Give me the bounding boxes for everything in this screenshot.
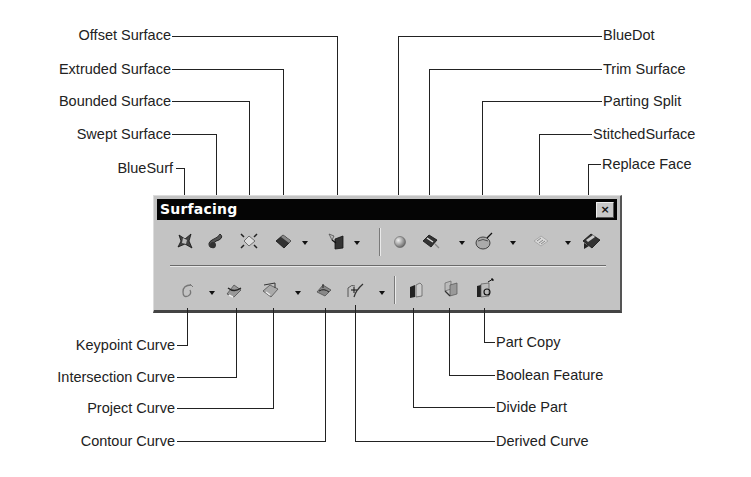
contour-curve-icon: [314, 280, 334, 300]
bluesurf-button[interactable]: [175, 231, 195, 251]
leader-intersection-v: [236, 308, 237, 378]
intersection-curve-button[interactable]: [224, 280, 244, 300]
extruded-surface-button[interactable]: [273, 231, 293, 251]
offset-surface-button[interactable]: [326, 231, 346, 251]
label-part-copy: Part Copy: [496, 334, 560, 350]
leader-contour-h: [177, 441, 326, 442]
trim-surface-icon: [420, 231, 440, 251]
bluedot-button[interactable]: [390, 231, 410, 251]
extruded-surface-dropdown[interactable]: [302, 241, 308, 245]
bluesurf-icon: [175, 231, 195, 251]
bluedot-icon: [390, 231, 410, 251]
replace-face-icon: [580, 230, 602, 252]
label-boolean-feature: Boolean Feature: [496, 367, 603, 383]
derived-curve-icon: [346, 280, 366, 300]
label-offset-surface: Offset Surface: [79, 27, 171, 43]
label-keypoint-curve: Keypoint Curve: [76, 337, 175, 353]
bounded-surface-icon: [239, 231, 259, 251]
extruded-surface-icon: [273, 231, 293, 251]
leader-divide-h: [413, 407, 495, 408]
stitched-surface-dropdown[interactable]: [565, 241, 571, 245]
project-curve-icon: [260, 280, 280, 300]
trim-surface-button[interactable]: [420, 231, 440, 251]
label-contour-curve: Contour Curve: [81, 433, 175, 449]
part-copy-icon: [474, 278, 496, 300]
leader-keypoint-h: [177, 345, 188, 346]
label-trim-surface: Trim Surface: [603, 61, 685, 77]
label-divide-part: Divide Part: [496, 399, 567, 415]
leader-partcopy-v: [484, 308, 485, 343]
keypoint-curve-button[interactable]: [178, 281, 198, 301]
leader-stitched-h: [539, 134, 592, 135]
label-replace-face: Replace Face: [602, 156, 691, 172]
label-bluedot: BlueDot: [603, 27, 655, 43]
keypoint-curve-dropdown[interactable]: [209, 291, 215, 295]
leader-offset-h: [172, 36, 338, 37]
toolbar-title: Surfacing: [160, 201, 237, 217]
label-extruded-surface: Extruded Surface: [59, 61, 171, 77]
project-curve-button[interactable]: [260, 280, 280, 300]
leader-trim-h: [429, 69, 602, 70]
leader-project-h: [177, 408, 274, 409]
leader-bluedot-h: [398, 36, 602, 37]
part-copy-button[interactable]: [474, 278, 494, 298]
leader-project-v: [273, 308, 274, 409]
leader-partcopy-h: [484, 342, 495, 343]
label-intersection-curve: Intersection Curve: [57, 369, 175, 385]
divide-part-button[interactable]: [406, 280, 426, 300]
toolbar-row-separator: [170, 265, 606, 267]
label-derived-curve: Derived Curve: [496, 433, 589, 449]
stitched-surface-icon: [531, 231, 551, 251]
trim-surface-dropdown[interactable]: [459, 241, 465, 245]
parting-split-dropdown[interactable]: [510, 241, 516, 245]
swept-surface-icon: [206, 231, 226, 251]
contour-curve-button[interactable]: [314, 280, 334, 300]
leader-divide-v: [413, 308, 414, 408]
surfacing-toolbar: Surfacing ×: [153, 195, 622, 313]
leader-keypoint-v: [187, 308, 188, 346]
leader-intersection-h: [177, 377, 237, 378]
leader-swept-h: [172, 134, 217, 135]
leader-derived-v: [355, 305, 356, 442]
close-button[interactable]: ×: [596, 202, 614, 218]
label-bluesurf: BlueSurf: [117, 160, 173, 176]
keypoint-curve-icon: [178, 281, 198, 301]
label-project-curve: Project Curve: [87, 400, 175, 416]
project-curve-dropdown[interactable]: [295, 291, 301, 295]
leader-boolean-v: [449, 308, 450, 376]
parting-split-button[interactable]: [474, 231, 494, 251]
label-swept-surface: Swept Surface: [77, 126, 171, 142]
label-parting-split: Parting Split: [603, 93, 681, 109]
leader-bounded-h: [172, 101, 250, 102]
toolbar-titlebar[interactable]: Surfacing ×: [157, 199, 617, 220]
replace-face-button[interactable]: [580, 230, 600, 250]
leader-replace-h: [588, 164, 601, 165]
intersection-curve-icon: [224, 280, 244, 300]
toolbar-separator: [379, 228, 381, 256]
label-stitched-surface: StitchedSurface: [593, 126, 695, 142]
stitched-surface-button[interactable]: [531, 231, 551, 251]
parting-split-icon: [474, 231, 494, 251]
divide-part-icon: [406, 280, 426, 300]
offset-surface-dropdown[interactable]: [354, 241, 360, 245]
leader-contour-v: [325, 308, 326, 442]
offset-surface-icon: [326, 231, 346, 251]
derived-curve-button[interactable]: [346, 280, 366, 300]
boolean-feature-icon: [441, 279, 461, 299]
boolean-feature-button[interactable]: [441, 279, 461, 299]
derived-curve-dropdown[interactable]: [379, 291, 385, 295]
leader-parting-h: [482, 101, 602, 102]
leader-derived-h: [355, 441, 495, 442]
bounded-surface-button[interactable]: [239, 231, 259, 251]
swept-surface-button[interactable]: [206, 231, 226, 251]
label-bounded-surface: Bounded Surface: [59, 93, 171, 109]
leader-extruded-h: [172, 69, 284, 70]
leader-boolean-h: [449, 375, 495, 376]
toolbar-separator-2: [394, 276, 396, 304]
close-icon: ×: [600, 203, 609, 216]
